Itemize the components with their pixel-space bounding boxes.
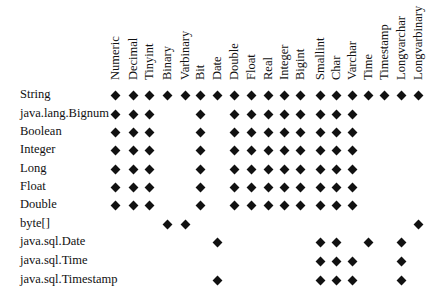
diamond-icon bbox=[295, 164, 305, 174]
diamond-icon bbox=[279, 200, 289, 210]
table-cell bbox=[294, 108, 306, 120]
table-cell bbox=[330, 199, 342, 211]
table-cell bbox=[211, 89, 223, 101]
diamond-icon bbox=[363, 237, 373, 247]
diamond-icon bbox=[279, 145, 289, 155]
diamond-icon bbox=[128, 127, 138, 137]
column-header-char: Char bbox=[329, 56, 343, 80]
column-header-timestamp: Timestamp bbox=[377, 24, 391, 80]
diamond-icon bbox=[279, 109, 289, 119]
table-cell bbox=[346, 255, 358, 267]
table-cell bbox=[127, 108, 139, 120]
table-cell bbox=[330, 108, 342, 120]
table-cell bbox=[294, 199, 306, 211]
diamond-icon bbox=[246, 127, 256, 137]
diamond-icon bbox=[128, 164, 138, 174]
table-cell bbox=[314, 108, 326, 120]
table-cell bbox=[314, 199, 326, 211]
table-cell bbox=[262, 108, 274, 120]
diamond-icon bbox=[144, 90, 154, 100]
diamond-icon bbox=[315, 256, 325, 266]
table-cell bbox=[194, 181, 206, 193]
table-cell bbox=[127, 89, 139, 101]
table-cell bbox=[109, 144, 121, 156]
diamond-icon bbox=[396, 237, 406, 247]
diamond-icon bbox=[279, 164, 289, 174]
diamond-icon bbox=[413, 219, 423, 229]
table-cell bbox=[127, 199, 139, 211]
table-cell bbox=[278, 126, 290, 138]
diamond-icon bbox=[331, 164, 341, 174]
table-cell bbox=[179, 89, 191, 101]
diamond-icon bbox=[315, 90, 325, 100]
column-header-time: Time bbox=[361, 54, 375, 80]
diamond-icon bbox=[110, 127, 120, 137]
diamond-icon bbox=[279, 90, 289, 100]
diamond-icon bbox=[110, 145, 120, 155]
row-label: Integer bbox=[20, 141, 55, 157]
row-label: java.sql.Date bbox=[20, 233, 85, 249]
diamond-icon bbox=[263, 200, 273, 210]
row-label: java.sql.Timestamp bbox=[20, 271, 117, 287]
diamond-icon bbox=[347, 164, 357, 174]
table-cell bbox=[346, 144, 358, 156]
table-cell bbox=[412, 218, 424, 230]
diamond-icon bbox=[229, 90, 239, 100]
table-cell bbox=[262, 89, 274, 101]
row-label: java.lang.Bignum bbox=[20, 105, 109, 121]
table-cell bbox=[278, 199, 290, 211]
column-header-integer: Integer bbox=[277, 45, 291, 80]
diamond-icon bbox=[279, 182, 289, 192]
table-cell bbox=[346, 108, 358, 120]
table-cell bbox=[346, 89, 358, 101]
diamond-icon bbox=[195, 145, 205, 155]
table-cell bbox=[194, 163, 206, 175]
diamond-icon bbox=[110, 164, 120, 174]
diamond-icon bbox=[246, 200, 256, 210]
diamond-icon bbox=[195, 164, 205, 174]
table-cell bbox=[346, 126, 358, 138]
diamond-icon bbox=[331, 200, 341, 210]
table-cell bbox=[161, 218, 173, 230]
table-cell bbox=[194, 89, 206, 101]
diamond-icon bbox=[144, 182, 154, 192]
table-cell bbox=[194, 126, 206, 138]
diamond-icon bbox=[347, 275, 357, 285]
table-cell bbox=[143, 163, 155, 175]
table-cell bbox=[314, 163, 326, 175]
table-cell bbox=[109, 181, 121, 193]
diamond-icon bbox=[295, 200, 305, 210]
table-cell bbox=[278, 144, 290, 156]
column-header-tinyint: Tinyint bbox=[142, 44, 156, 80]
table-cell bbox=[278, 108, 290, 120]
row-label: Boolean bbox=[20, 123, 62, 139]
diamond-icon bbox=[144, 127, 154, 137]
table-cell bbox=[228, 126, 240, 138]
column-header-date: Date bbox=[210, 56, 224, 80]
table-cell bbox=[395, 255, 407, 267]
diamond-icon bbox=[396, 90, 406, 100]
diamond-icon bbox=[331, 237, 341, 247]
table-cell bbox=[143, 126, 155, 138]
diamond-icon bbox=[229, 127, 239, 137]
diamond-icon bbox=[110, 200, 120, 210]
table-cell bbox=[395, 274, 407, 286]
column-header-binary: Binary bbox=[160, 46, 174, 80]
table-cell bbox=[314, 89, 326, 101]
diamond-icon bbox=[315, 145, 325, 155]
diamond-icon bbox=[347, 127, 357, 137]
table-cell bbox=[314, 144, 326, 156]
table-cell bbox=[194, 144, 206, 156]
table-cell bbox=[109, 126, 121, 138]
table-cell bbox=[346, 163, 358, 175]
table-cell bbox=[330, 126, 342, 138]
diamond-icon bbox=[315, 182, 325, 192]
table-cell bbox=[228, 89, 240, 101]
row-label: Float bbox=[20, 178, 46, 194]
table-cell bbox=[211, 274, 223, 286]
table-cell bbox=[314, 181, 326, 193]
table-cell bbox=[378, 89, 390, 101]
table-cell bbox=[228, 199, 240, 211]
diamond-icon bbox=[246, 182, 256, 192]
diamond-icon bbox=[315, 109, 325, 119]
